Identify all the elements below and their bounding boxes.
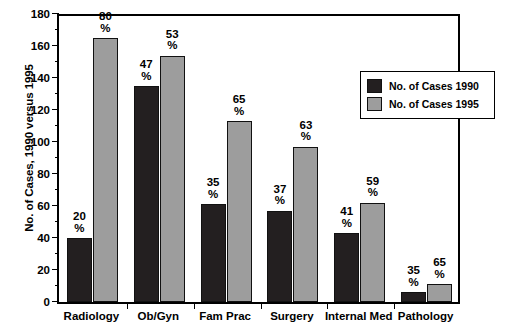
y-axis-tick xyxy=(52,173,59,174)
y-axis-tick xyxy=(52,269,59,270)
y-axis-tick xyxy=(52,301,59,302)
y-axis-tick xyxy=(52,13,59,14)
bar-surgery-1995 xyxy=(293,147,318,302)
bar-value-label: 59% xyxy=(354,176,391,199)
legend-label-1990: No. of Cases 1990 xyxy=(389,80,479,92)
chart-legend: No. of Cases 1990 No. of Cases 1995 xyxy=(360,71,495,119)
legend-item-1995: No. of Cases 1995 xyxy=(367,95,488,113)
bar-chart-figure: No. of Cases, 1990 versus 1995 020406080… xyxy=(0,0,511,336)
y-axis-tick-label: 80 xyxy=(16,168,50,180)
y-axis-tick xyxy=(52,45,59,46)
bar-value-label: 65% xyxy=(421,257,458,280)
bar-radiology-1995 xyxy=(93,38,118,302)
bar-pathology-1995 xyxy=(427,284,452,302)
bar-value-label: 63% xyxy=(287,120,324,143)
y-axis-tick-label: 140 xyxy=(16,72,50,84)
legend-label-1995: No. of Cases 1995 xyxy=(389,98,479,110)
bar-value-unit: % xyxy=(421,269,458,281)
x-axis-tick xyxy=(127,302,128,309)
y-axis-tick-label: 160 xyxy=(16,40,50,52)
bar-value-unit: % xyxy=(354,187,391,199)
y-axis-tick xyxy=(55,125,59,126)
bar-internal-med-1995 xyxy=(360,203,385,302)
bar-internal-med-1990 xyxy=(334,233,359,302)
y-axis-tick xyxy=(55,29,59,30)
bar-ob-gyn-1990 xyxy=(134,86,159,302)
legend-swatch-1990 xyxy=(367,79,382,93)
y-axis-tick-label: 100 xyxy=(16,136,50,148)
y-axis-tick xyxy=(55,221,59,222)
y-axis-tick xyxy=(52,109,59,110)
x-axis-tick xyxy=(327,302,328,309)
bar-value-unit: % xyxy=(154,40,191,52)
legend-item-1990: No. of Cases 1990 xyxy=(367,77,488,95)
bar-fam-prac-1995 xyxy=(227,121,252,302)
x-axis-tick xyxy=(394,302,395,309)
y-axis-tick xyxy=(52,237,59,238)
bar-ob-gyn-1995 xyxy=(160,56,185,302)
y-axis-tick xyxy=(55,93,59,94)
y-axis-tick xyxy=(55,253,59,254)
bar-value-number: 65 xyxy=(221,94,258,106)
y-axis-tick xyxy=(52,205,59,206)
y-axis-tick xyxy=(55,61,59,62)
y-axis-tick-label: 60 xyxy=(16,200,50,212)
bar-value-label: 80% xyxy=(87,11,124,34)
y-axis-tick xyxy=(52,141,59,142)
x-axis-tick xyxy=(194,302,195,309)
bar-value-number: 80 xyxy=(87,11,124,23)
y-axis-tick xyxy=(55,189,59,190)
y-axis-tick-label: 20 xyxy=(16,264,50,276)
bar-surgery-1990 xyxy=(267,211,292,302)
y-axis-tick xyxy=(55,285,59,286)
x-axis-tick xyxy=(261,302,262,309)
y-axis-tick xyxy=(55,157,59,158)
y-axis-tick-label: 180 xyxy=(16,8,50,20)
y-axis-tick-label: 0 xyxy=(16,296,50,308)
bar-fam-prac-1990 xyxy=(201,204,226,302)
bar-value-unit: % xyxy=(87,23,124,35)
bar-value-unit: % xyxy=(221,106,258,118)
legend-swatch-1995 xyxy=(367,97,382,111)
plot-area: 02040608010012014016018020%80%47%53%35%6… xyxy=(57,14,460,304)
bar-radiology-1990 xyxy=(67,238,92,302)
y-axis-tick xyxy=(52,77,59,78)
y-axis-tick-label: 120 xyxy=(16,104,50,116)
y-axis-tick-label: 40 xyxy=(16,232,50,244)
bar-pathology-1990 xyxy=(401,292,426,302)
bar-value-unit: % xyxy=(287,131,324,143)
bar-value-label: 53% xyxy=(154,29,191,52)
x-axis-category-label: Pathology xyxy=(380,310,471,322)
bar-value-label: 65% xyxy=(221,94,258,117)
